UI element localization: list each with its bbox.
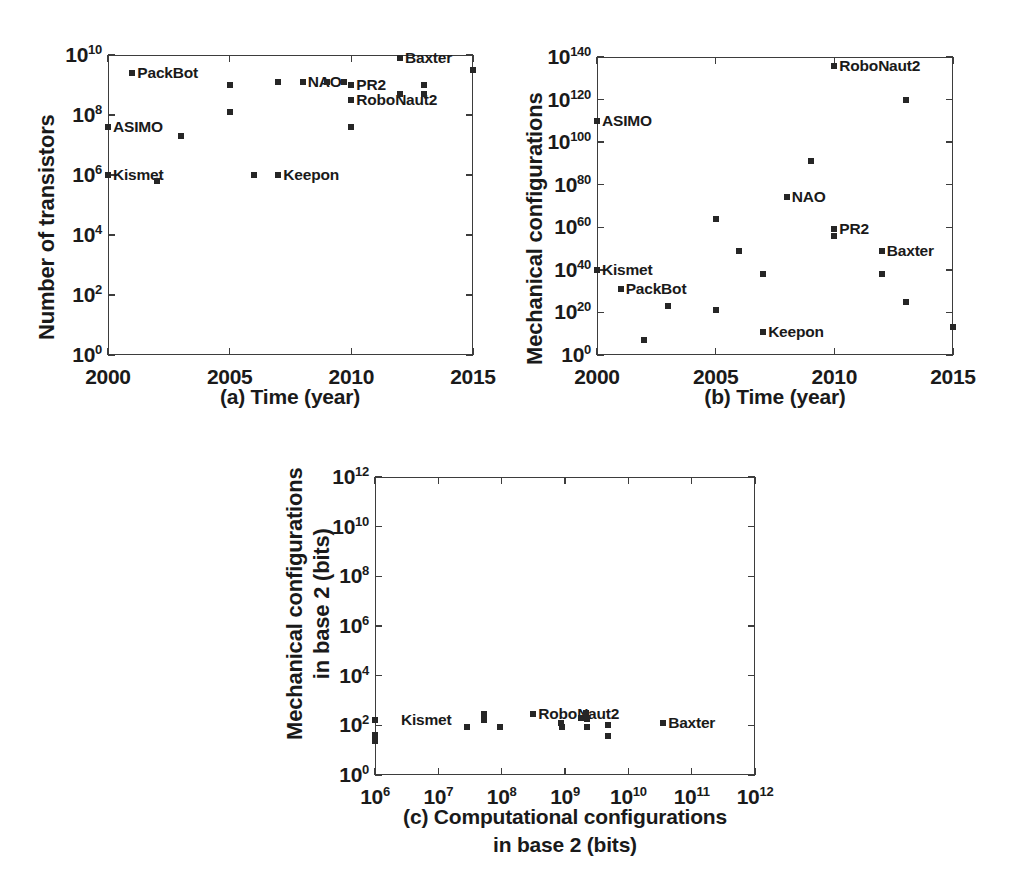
y-axis-tick-label: 100 xyxy=(500,343,591,367)
x-axis-tick-label: 2010 xyxy=(812,365,858,389)
y-axis-tick xyxy=(748,476,755,477)
data-point xyxy=(760,329,766,335)
panel-c-y-axis-title-line1: Mechanical configurations xyxy=(282,468,307,741)
y-axis-tick-label: 1080 xyxy=(500,173,591,197)
y-axis-tick xyxy=(748,625,755,626)
data-point xyxy=(760,271,766,277)
data-point xyxy=(584,724,590,730)
data-point-label: ASIMO xyxy=(113,118,163,136)
x-axis-tick xyxy=(501,768,502,775)
x-axis-tick xyxy=(628,477,629,484)
data-point xyxy=(372,732,378,738)
data-point xyxy=(903,299,909,305)
data-point xyxy=(421,91,427,97)
y-axis-tick xyxy=(466,114,473,115)
y-axis-tick xyxy=(597,354,604,355)
data-point xyxy=(421,82,427,88)
x-axis-tick xyxy=(501,477,502,484)
panel-c-caption-line2: in base 2 (bits) xyxy=(493,833,637,857)
data-point xyxy=(275,79,281,85)
x-axis-tick xyxy=(438,768,439,775)
data-point xyxy=(594,267,600,273)
data-point-label: Baxter xyxy=(887,242,934,260)
data-point-label: RoboNaut2 xyxy=(839,57,920,75)
data-point xyxy=(605,722,611,728)
data-point xyxy=(348,82,354,88)
y-axis-tick-label: 104 xyxy=(240,664,369,688)
y-axis-tick-label: 100 xyxy=(0,343,102,367)
data-point xyxy=(464,724,470,730)
data-point xyxy=(808,158,814,164)
data-point xyxy=(660,720,666,726)
data-point-label: Baxter xyxy=(668,714,715,732)
data-point-label: NAO xyxy=(792,188,826,206)
x-axis-tick-label: 2015 xyxy=(450,365,496,389)
data-point xyxy=(879,248,885,254)
data-point-label: Kismet xyxy=(401,711,451,729)
y-axis-tick xyxy=(108,54,115,55)
data-point xyxy=(105,124,111,130)
y-axis-tick xyxy=(748,526,755,527)
data-point xyxy=(665,303,671,309)
y-axis-tick xyxy=(946,354,953,355)
y-axis-tick-label: 106 xyxy=(240,614,369,638)
x-axis-tick xyxy=(691,768,692,775)
y-axis-tick xyxy=(375,774,382,775)
y-axis-tick-label: 1010 xyxy=(240,515,369,539)
y-axis-tick-label: 10100 xyxy=(500,130,591,154)
y-axis-tick xyxy=(375,725,382,726)
y-axis-tick xyxy=(375,476,382,477)
data-point xyxy=(105,172,111,178)
x-axis-tick xyxy=(229,55,230,62)
y-axis-tick xyxy=(108,354,115,355)
x-axis-tick-label: 106 xyxy=(360,785,390,809)
x-axis-tick-label: 2010 xyxy=(329,365,375,389)
y-axis-tick xyxy=(375,526,382,527)
y-axis-tick-label: 1040 xyxy=(500,258,591,282)
x-axis-tick-label: 108 xyxy=(487,785,517,809)
x-axis-tick xyxy=(351,55,352,62)
x-axis-tick xyxy=(107,55,108,62)
x-axis-tick-label: 1010 xyxy=(610,785,647,809)
x-axis-tick-label: 2005 xyxy=(693,365,739,389)
x-axis-tick xyxy=(351,348,352,355)
y-axis-tick xyxy=(108,234,115,235)
y-axis-tick-label: 1010 xyxy=(0,43,102,67)
data-point xyxy=(736,248,742,254)
panel-c-y-axis-title: Mechanical configurations in base 2 (bit… xyxy=(282,468,336,741)
data-point xyxy=(372,717,378,723)
y-axis-tick-label: 1020 xyxy=(500,300,591,324)
y-axis-tick xyxy=(108,114,115,115)
y-axis-tick xyxy=(748,576,755,577)
data-point xyxy=(178,133,184,139)
y-axis-tick xyxy=(466,174,473,175)
data-point xyxy=(530,711,536,717)
y-axis-tick-label: 10120 xyxy=(500,88,591,112)
x-axis-tick xyxy=(952,57,953,64)
y-axis-tick-label: 108 xyxy=(0,103,102,127)
data-point xyxy=(559,724,565,730)
x-axis-tick xyxy=(754,477,755,484)
data-point-label: PackBot xyxy=(626,280,687,298)
data-point xyxy=(129,70,135,76)
x-axis-tick xyxy=(628,768,629,775)
data-point xyxy=(251,172,257,178)
y-axis-tick-label: 1012 xyxy=(240,465,369,489)
y-axis-tick xyxy=(375,675,382,676)
x-axis-tick-label: 1012 xyxy=(737,785,774,809)
panel-b: Mechanical configurations (b) Time (year… xyxy=(500,0,1010,420)
y-axis-tick xyxy=(748,774,755,775)
y-axis-tick xyxy=(946,227,953,228)
data-point-label: PackBot xyxy=(137,64,198,82)
y-axis-tick-label: 100 xyxy=(240,763,369,787)
data-point xyxy=(470,67,476,73)
y-axis-tick xyxy=(466,234,473,235)
y-axis-tick xyxy=(375,625,382,626)
x-axis-tick xyxy=(834,348,835,355)
x-axis-tick xyxy=(564,768,565,775)
data-point xyxy=(275,172,281,178)
data-point xyxy=(348,97,354,103)
figure-root: Number of transistors (a) Time (year) 20… xyxy=(0,0,1010,887)
y-axis-tick xyxy=(946,99,953,100)
data-point xyxy=(481,717,487,723)
